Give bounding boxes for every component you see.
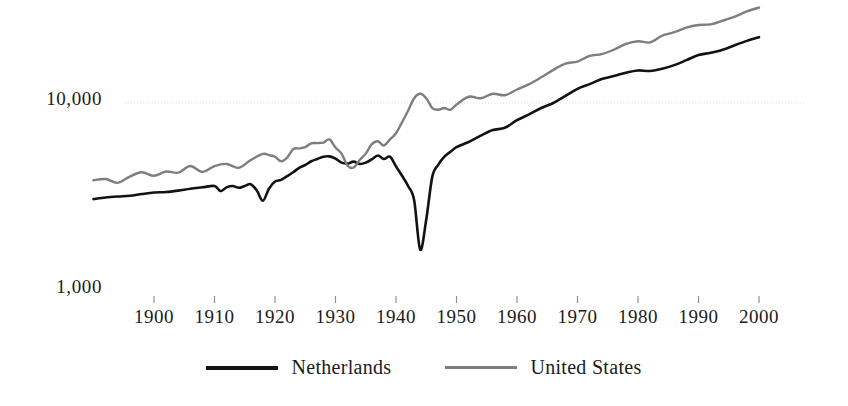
- legend-line-swatch-united-states: [445, 366, 517, 369]
- x-axis-tick-label-1970: 1970: [558, 306, 598, 328]
- legend-line-swatch-netherlands: [206, 366, 278, 370]
- x-axis-tick-label-1980: 1980: [618, 306, 658, 328]
- x-axis-tick-label-1960: 1960: [497, 306, 537, 328]
- chart-plot-area: [0, 0, 848, 406]
- series-line-united-states: [94, 8, 760, 183]
- y-axis-tick-label-1000: 1,000: [56, 276, 102, 298]
- x-axis-tick-label-1910: 1910: [195, 306, 235, 328]
- x-axis-tick-label-1950: 1950: [437, 306, 477, 328]
- legend-item-united-states[interactable]: United States: [445, 356, 641, 379]
- x-axis-tick-label-2000: 2000: [739, 306, 779, 328]
- x-axis-tick-label-1990: 1990: [679, 306, 719, 328]
- legend-item-netherlands[interactable]: Netherlands: [206, 356, 391, 379]
- chart-legend: Netherlands United States: [0, 356, 848, 379]
- series-line-netherlands: [94, 37, 760, 250]
- chart-container: 10,000 1,000 190019101920193019401950196…: [0, 0, 848, 406]
- legend-label-united-states: United States: [530, 356, 641, 379]
- x-axis-tick-label-1920: 1920: [255, 306, 295, 328]
- x-axis-tick-label-1900: 1900: [134, 306, 174, 328]
- x-axis-tick-label-1940: 1940: [376, 306, 416, 328]
- y-axis-tick-label-10000: 10,000: [46, 88, 102, 110]
- legend-label-netherlands: Netherlands: [291, 356, 391, 379]
- x-axis-tick-label-1930: 1930: [316, 306, 356, 328]
